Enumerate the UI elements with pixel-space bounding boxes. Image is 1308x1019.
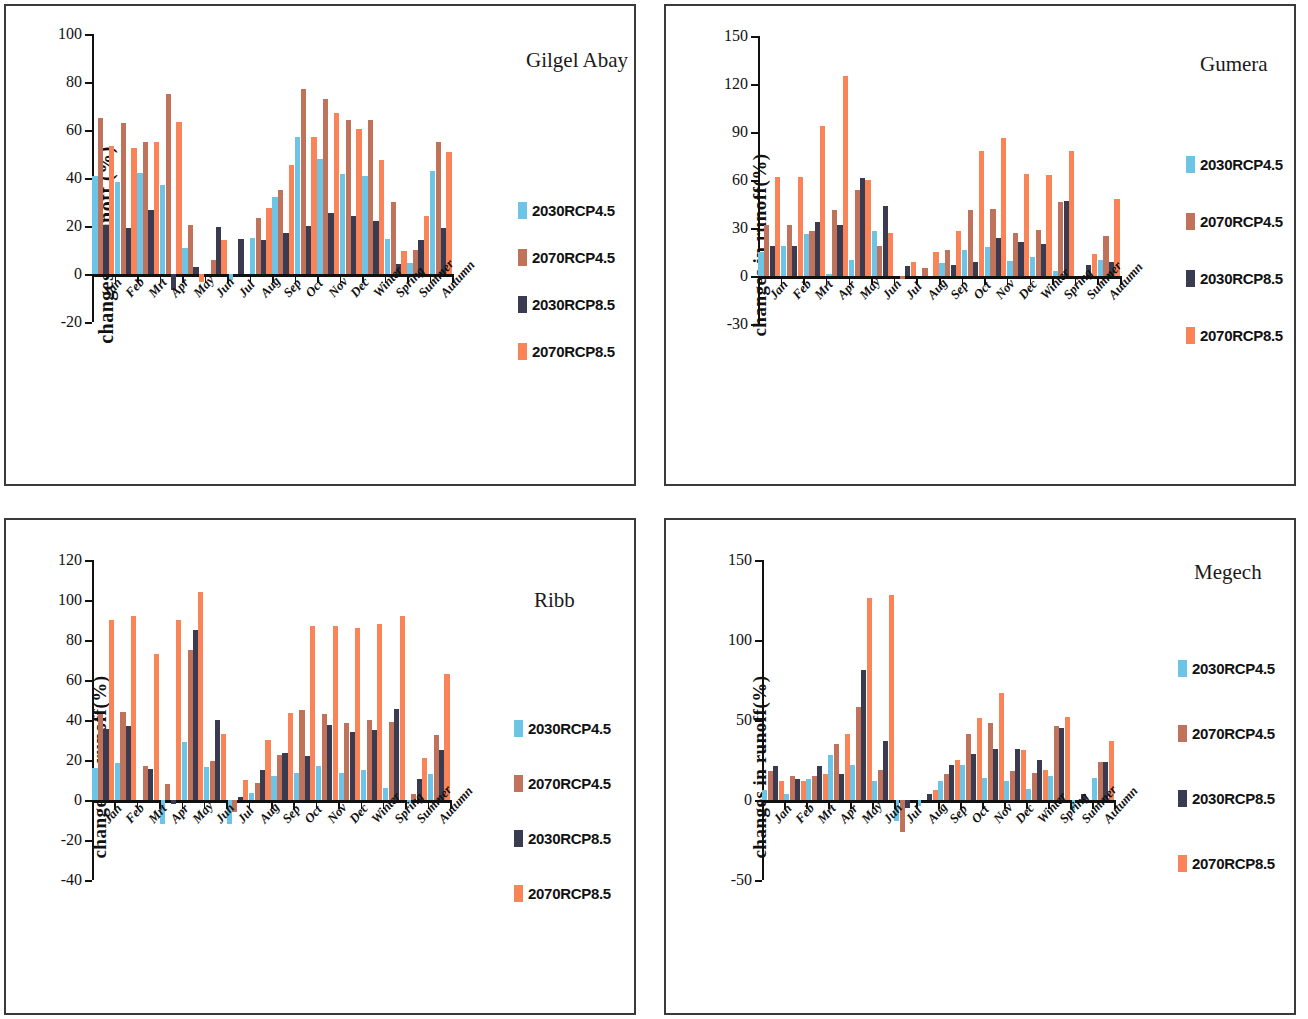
bar <box>990 209 995 276</box>
bar <box>238 797 243 800</box>
bar <box>361 770 366 800</box>
legend-item[interactable]: 2030RCP4.5 <box>1178 660 1275 677</box>
bar <box>806 779 811 800</box>
bar <box>305 756 310 800</box>
legend-item[interactable]: 2030RCP4.5 <box>514 720 611 737</box>
bar <box>973 262 978 276</box>
y-axis-tick <box>85 680 92 682</box>
legend-swatch-icon <box>1186 213 1195 230</box>
legend-item[interactable]: 2070RCP8.5 <box>518 343 615 360</box>
bar <box>306 226 311 274</box>
bar-groups <box>762 560 1114 880</box>
bar <box>377 624 382 800</box>
bar <box>849 260 854 276</box>
y-axis-tick-label: 100 <box>58 591 82 609</box>
legend-item[interactable]: 2070RCP8.5 <box>514 885 611 902</box>
bar <box>333 626 338 800</box>
bar <box>966 734 971 800</box>
bar <box>148 210 153 274</box>
plot-area: 120100806040200-20-40JanFebMrtAprMayJunJ… <box>92 560 450 880</box>
bar <box>256 218 261 274</box>
bar <box>299 710 304 800</box>
bar-group <box>204 560 226 880</box>
legend-item[interactable]: 2070RCP4.5 <box>518 249 615 266</box>
bar <box>137 173 142 274</box>
bar <box>1015 749 1020 800</box>
bar-group <box>316 560 338 880</box>
bar <box>379 160 384 274</box>
bar <box>260 770 265 800</box>
y-axis-tick <box>755 880 762 882</box>
legend: 2030RCP4.52070RCP4.52030RCP8.52070RCP8.5 <box>1186 156 1283 384</box>
bar <box>278 190 283 274</box>
legend-item[interactable]: 2070RCP4.5 <box>514 775 611 792</box>
y-axis-tick-label: 0 <box>740 267 748 285</box>
bar <box>867 598 872 800</box>
legend-item[interactable]: 2030RCP8.5 <box>1178 790 1275 807</box>
legend-item[interactable]: 2030RCP4.5 <box>518 202 615 219</box>
bar <box>243 780 248 800</box>
legend-item[interactable]: 2070RCP8.5 <box>1178 855 1275 872</box>
chart-panel-ribb: changes in runoff(%) Ribb 12010080604020… <box>4 518 636 1015</box>
chart-gilgel-abay: changes in runoff (%) Gilgel Abay 100806… <box>6 6 634 484</box>
bar-group <box>960 560 982 880</box>
bar <box>1007 261 1012 276</box>
y-axis-tick-label: 120 <box>724 75 748 93</box>
y-axis-tick-label: 120 <box>58 551 82 569</box>
bar <box>221 734 226 800</box>
legend-label: 2030RCP8.5 <box>1192 790 1275 807</box>
bar <box>350 732 355 800</box>
bar <box>131 616 136 800</box>
y-axis-tick <box>85 322 92 324</box>
bar-group <box>850 560 872 880</box>
y-axis-tick-label: 60 <box>732 171 748 189</box>
bar <box>436 142 441 274</box>
bar <box>843 76 848 276</box>
y-axis-tick <box>751 276 758 278</box>
y-axis-tick <box>755 640 762 642</box>
bar <box>289 165 294 274</box>
bar <box>812 776 817 800</box>
y-axis-tick <box>751 132 758 134</box>
bar-group <box>1026 560 1048 880</box>
legend-swatch-icon <box>514 830 523 847</box>
bar <box>933 252 938 276</box>
y-axis-tick-label: 40 <box>66 169 82 187</box>
x-axis-tick <box>92 800 94 809</box>
bar <box>171 800 176 804</box>
bar <box>322 714 327 800</box>
bar <box>979 151 984 276</box>
chart-panel-gumera: changes in runoff(%) Gumera 150120906030… <box>664 4 1296 486</box>
legend-item[interactable]: 2030RCP8.5 <box>1186 270 1283 287</box>
legend-item[interactable]: 2070RCP4.5 <box>1186 213 1283 230</box>
bar <box>422 758 427 800</box>
bar <box>850 765 855 800</box>
legend-item[interactable]: 2030RCP8.5 <box>514 830 611 847</box>
legend-swatch-icon <box>514 885 523 902</box>
bar <box>1032 773 1037 800</box>
bar <box>92 768 97 800</box>
legend-item[interactable]: 2070RCP8.5 <box>1186 327 1283 344</box>
bar <box>283 233 288 274</box>
legend-item[interactable]: 2070RCP4.5 <box>1178 725 1275 742</box>
legend-item[interactable]: 2030RCP4.5 <box>1186 156 1283 173</box>
bar <box>828 755 833 800</box>
basin-title: Gumera <box>1200 52 1268 77</box>
bar <box>328 213 333 274</box>
legend-item[interactable]: 2030RCP8.5 <box>518 296 615 313</box>
bar <box>787 225 792 276</box>
bar <box>856 707 861 800</box>
legend-swatch-icon <box>518 202 527 219</box>
chart-megech: changes in runoff(%) Megech 150100500-50… <box>666 520 1294 1013</box>
bar <box>356 129 361 274</box>
y-axis-tick-label: 60 <box>66 671 82 689</box>
bar <box>1037 760 1042 800</box>
y-axis-tick <box>751 324 758 326</box>
legend-swatch-icon <box>518 343 527 360</box>
bar <box>762 790 767 800</box>
y-axis-tick-label: 100 <box>728 631 752 649</box>
bar <box>317 159 322 274</box>
y-axis-tick <box>85 274 92 276</box>
bar <box>372 730 377 800</box>
bar <box>927 794 932 800</box>
